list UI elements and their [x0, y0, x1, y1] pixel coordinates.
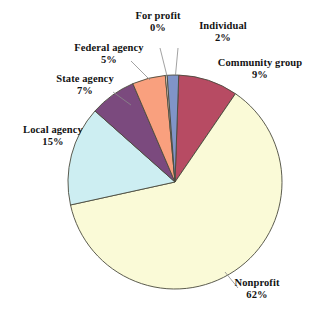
slice-label-federal-agency-name: Federal agency — [74, 42, 143, 53]
slice-label-for-profit-name: For profit — [135, 10, 180, 21]
slice-label-individual: Individual 2% — [186, 20, 260, 44]
slice-label-state-agency-name: State agency — [56, 73, 113, 84]
slice-label-nonprofit-name: Nonprofit — [234, 277, 279, 288]
slice-label-nonprofit: Nonprofit 62% — [215, 277, 299, 301]
slice-label-federal-agency: Federal agency 5% — [59, 42, 159, 66]
pie-slice-group — [68, 75, 282, 289]
slice-label-nonprofit-value: 62% — [215, 289, 299, 301]
slice-label-local-agency-value: 15% — [5, 136, 101, 148]
slice-label-local-agency-name: Local agency — [23, 124, 83, 135]
slice-label-individual-value: 2% — [186, 32, 260, 44]
leader-line-for-profit — [160, 48, 167, 76]
slice-label-individual-name: Individual — [199, 20, 247, 31]
leader-line-individual — [176, 48, 179, 75]
slice-label-local-agency: Local agency 15% — [5, 124, 101, 148]
pie-chart-figure: For profit 0% Individual 2% Community gr… — [0, 0, 314, 318]
slice-label-state-agency: State agency 7% — [38, 73, 132, 97]
slice-label-federal-agency-value: 5% — [59, 54, 159, 66]
slice-label-state-agency-value: 7% — [38, 85, 132, 97]
slice-label-community-group-value: 9% — [207, 69, 313, 81]
slice-label-community-group: Community group 9% — [207, 57, 313, 81]
slice-label-community-group-name: Community group — [218, 57, 302, 68]
